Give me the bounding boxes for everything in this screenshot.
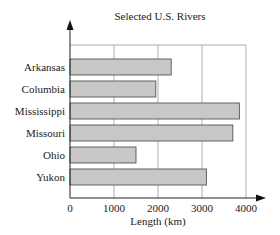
category-label: Missouri bbox=[26, 127, 65, 139]
x-tick-label: 1000 bbox=[103, 202, 126, 214]
x-tick-label: 0 bbox=[67, 202, 73, 214]
bar-mississippi bbox=[70, 103, 239, 119]
x-tick-label: 2000 bbox=[147, 202, 170, 214]
y-axis-arrow-icon bbox=[67, 20, 74, 30]
bar-yukon bbox=[70, 169, 206, 185]
bar-ohio bbox=[70, 147, 136, 163]
x-axis-label: Length (km) bbox=[130, 215, 186, 228]
category-label: Ohio bbox=[43, 149, 66, 161]
category-label: Mississippi bbox=[15, 105, 65, 117]
x-axis-arrow-icon bbox=[256, 195, 266, 202]
bar-chart: ArkansasColumbiaMississippiMissouriOhioY… bbox=[0, 0, 280, 235]
category-label: Yukon bbox=[36, 171, 65, 183]
category-label: Arkansas bbox=[24, 61, 65, 73]
bar-missouri bbox=[70, 125, 233, 141]
x-tick-label: 4000 bbox=[235, 202, 258, 214]
x-tick-label: 3000 bbox=[191, 202, 214, 214]
category-label: Columbia bbox=[22, 83, 66, 95]
bar-columbia bbox=[70, 81, 156, 97]
bar-arkansas bbox=[70, 59, 171, 75]
